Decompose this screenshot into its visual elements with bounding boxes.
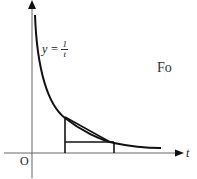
function-fraction: 1 t: [61, 40, 68, 59]
function-lhs: y =: [42, 42, 58, 57]
function-denominator: t: [63, 50, 66, 59]
side-text: Fo: [157, 60, 172, 76]
curve-y-equals-1-over-t: [35, 15, 161, 148]
x-axis-label: t: [186, 146, 189, 161]
origin-label: O: [20, 154, 29, 169]
chord-segment: [65, 117, 110, 142]
x-axis-arrow-icon: [175, 150, 184, 157]
diagram-canvas: [0, 0, 197, 179]
y-axis-arrow-icon: [28, 0, 36, 9]
function-label: y = 1 t: [42, 40, 68, 59]
